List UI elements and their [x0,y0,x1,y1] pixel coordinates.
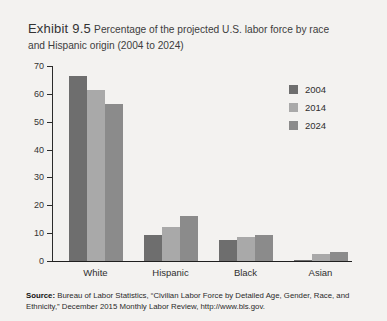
y-axis-tick-label: 40 [34,145,44,155]
bar-hispanic-2014 [162,227,180,261]
y-axis-tick-label: 20 [34,200,44,210]
bar-white-2024 [105,104,123,261]
bar-white-2004 [69,76,87,261]
y-axis-tick-mark [47,233,52,234]
legend-swatch-icon [289,85,298,94]
y-axis-tick-label: 0 [39,256,44,266]
page-title: Exhibit 9.5 Percentage of the projected … [28,22,348,53]
exhibit-number: Exhibit 9.5 [28,21,91,36]
y-axis-tick-label: 10 [34,228,44,238]
legend-item-2014: 2014 [289,100,326,115]
y-axis-tick-label: 30 [34,172,44,182]
bar-black-2014 [237,237,255,261]
y-axis-line [52,66,53,261]
legend-swatch-icon [289,121,298,130]
figure-title-block: Exhibit 9.5 Percentage of the projected … [28,22,348,53]
legend-label: 2014 [305,102,326,113]
y-axis-tick-mark [47,66,52,67]
bar-hispanic-2004 [144,235,162,261]
bar-asian-2014 [312,254,330,261]
bar-group: Black [219,66,273,261]
bar-hispanic-2024 [180,216,198,261]
source-text: Bureau of Labor Statistics, “Civilian La… [26,291,349,311]
bar-group: Hispanic [144,66,198,261]
x-axis-line [52,261,352,262]
y-axis-tick-label: 50 [34,117,44,127]
bar-white-2014 [87,90,105,261]
y-axis-tick-mark [47,177,52,178]
legend-label: 2024 [305,120,326,131]
bar-group: White [69,66,123,261]
y-axis-tick-mark [47,205,52,206]
legend-item-2004: 2004 [289,82,326,97]
legend-swatch-icon [289,103,298,112]
chart-legend: 200420142024 [289,82,326,136]
source-prefix: Source: [26,291,55,300]
bar-asian-2024 [330,252,348,261]
y-axis-tick-mark [47,122,52,123]
legend-item-2024: 2024 [289,118,326,133]
legend-label: 2004 [305,84,326,95]
y-axis-tick-mark [47,94,52,95]
source-note: Source: Bureau of Labor Statistics, “Civ… [26,290,371,312]
bar-asian-2004 [294,260,312,261]
y-axis-tick-label: 60 [34,89,44,99]
y-axis-tick-mark [47,150,52,151]
x-axis-category-label: Asian [276,267,366,278]
y-axis-tick-mark [47,261,52,262]
bar-black-2024 [255,235,273,261]
y-axis-tick-label: 70 [34,61,44,71]
exhibit-figure: Exhibit 9.5 Percentage of the projected … [0,0,387,321]
bar-black-2004 [219,240,237,261]
